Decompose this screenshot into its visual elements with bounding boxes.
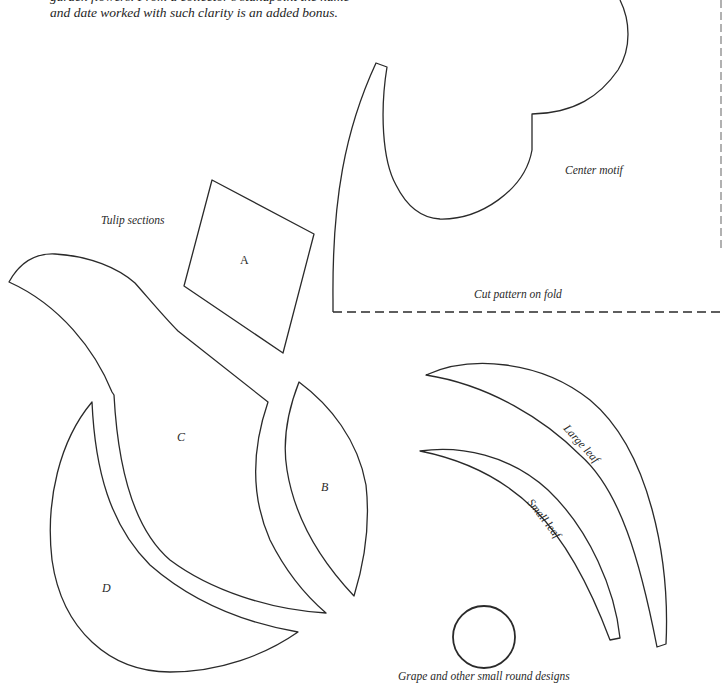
center-motif-label: Center motif xyxy=(565,164,623,176)
section-c-letter: C xyxy=(177,430,185,445)
cut-pattern-label: Cut pattern on fold xyxy=(474,288,562,300)
grape-circle xyxy=(453,606,515,668)
tulip-section-a xyxy=(184,180,314,353)
grape-label: Grape and other small round designs xyxy=(398,670,570,682)
center-motif-shape xyxy=(333,0,628,312)
large-leaf-shape xyxy=(426,364,666,647)
tulip-sections-label: Tulip sections xyxy=(101,214,165,226)
section-b-letter: B xyxy=(321,480,328,495)
section-d-letter: D xyxy=(102,581,111,596)
tulip-section-d xyxy=(50,402,298,672)
small-leaf-shape xyxy=(420,449,620,640)
tulip-section-c xyxy=(9,254,326,613)
section-a-letter: A xyxy=(240,253,249,268)
